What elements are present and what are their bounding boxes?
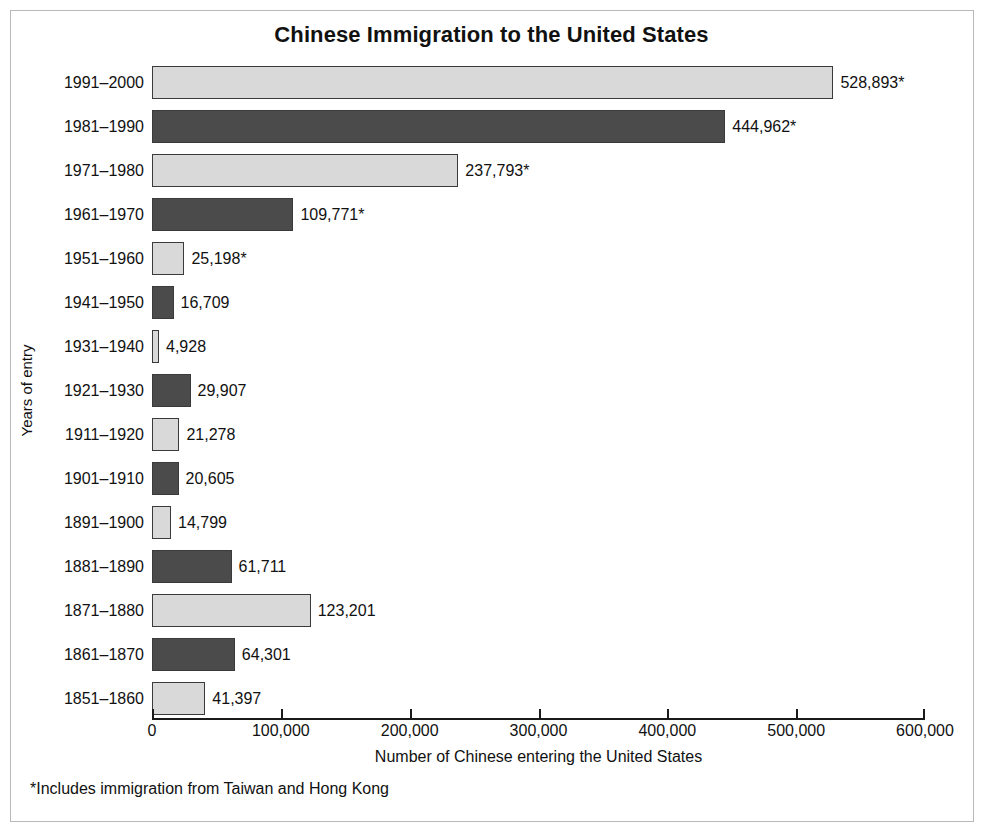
category-label: 1881–1890: [0, 550, 152, 583]
bar: [152, 682, 205, 715]
category-label-cell: 1861–1870: [0, 638, 152, 671]
category-label-cell: 1971–1980: [0, 154, 152, 187]
category-label: 1941–1950: [0, 286, 152, 319]
bar: [152, 330, 159, 363]
x-axis-tick-label: 500,000: [767, 722, 825, 740]
bar: [152, 594, 311, 627]
category-label-cell: 1851–1860: [0, 682, 152, 715]
bar: [152, 506, 171, 539]
x-axis-tick-label: 600,000: [896, 722, 954, 740]
category-label-cell: 1981–1990: [0, 110, 152, 143]
bar-value-label: 237,793*: [465, 154, 529, 187]
category-label-cell: 1911–1920: [0, 418, 152, 451]
x-axis-tick: [667, 709, 669, 718]
category-label-cell: 1991–2000: [0, 66, 152, 99]
category-label-cell: 1881–1890: [0, 550, 152, 583]
category-label: 1981–1990: [0, 110, 152, 143]
x-axis-tick: [796, 709, 798, 718]
bar: [152, 462, 179, 495]
category-label: 1861–1870: [0, 638, 152, 671]
category-label-cell: 1871–1880: [0, 594, 152, 627]
bar: [152, 198, 293, 231]
category-label: 1921–1930: [0, 374, 152, 407]
bar-value-label: 4,928: [166, 330, 206, 363]
x-axis-tick-label: 200,000: [381, 722, 439, 740]
bar-row: 1891–190014,799: [0, 506, 983, 550]
bar-value-label: 29,907: [198, 374, 247, 407]
category-label-cell: 1931–1940: [0, 330, 152, 363]
bar-value-label: 528,893*: [840, 66, 904, 99]
x-axis-tick: [539, 709, 541, 718]
bar-row: 1941–195016,709: [0, 286, 983, 330]
x-axis-tick: [152, 709, 154, 718]
category-label: 1971–1980: [0, 154, 152, 187]
bar-value-label: 14,799: [178, 506, 227, 539]
bar-rows: 1991–2000528,893*1981–1990444,962*1971–1…: [0, 66, 983, 726]
bar-row: 1871–1880123,201: [0, 594, 983, 638]
footnote: *Includes immigration from Taiwan and Ho…: [30, 780, 389, 798]
x-axis-tick-label: 400,000: [638, 722, 696, 740]
bar-row: 1901–191020,605: [0, 462, 983, 506]
category-label: 1931–1940: [0, 330, 152, 363]
bar-row: 1881–189061,711: [0, 550, 983, 594]
bar-value-label: 20,605: [186, 462, 235, 495]
bar: [152, 550, 232, 583]
x-axis-tick-label: 0: [148, 722, 157, 740]
bar: [152, 418, 179, 451]
bar-value-label: 21,278: [186, 418, 235, 451]
bar-row: 1931–19404,928: [0, 330, 983, 374]
x-axis-tick: [281, 709, 283, 718]
category-label: 1901–1910: [0, 462, 152, 495]
category-label: 1991–2000: [0, 66, 152, 99]
bar-value-label: 123,201: [318, 594, 376, 627]
bar-row: 1981–1990444,962*: [0, 110, 983, 154]
category-label-cell: 1941–1950: [0, 286, 152, 319]
x-axis-tick: [410, 709, 412, 718]
bar-row: 1991–2000528,893*: [0, 66, 983, 110]
category-label-cell: 1951–1960: [0, 242, 152, 275]
bar: [152, 110, 725, 143]
bar: [152, 242, 184, 275]
x-axis-tick-label: 100,000: [252, 722, 310, 740]
bar-value-label: 61,711: [239, 550, 287, 583]
bar-row: 1961–1970109,771*: [0, 198, 983, 242]
category-label-cell: 1891–1900: [0, 506, 152, 539]
category-label: 1871–1880: [0, 594, 152, 627]
x-axis-title: Number of Chinese entering the United St…: [152, 748, 925, 766]
category-label: 1891–1900: [0, 506, 152, 539]
category-label-cell: 1901–1910: [0, 462, 152, 495]
bar-row: 1951–196025,198*: [0, 242, 983, 286]
bar-value-label: 64,301: [242, 638, 291, 671]
chart-title: Chinese Immigration to the United States: [0, 22, 983, 48]
category-label: 1851–1860: [0, 682, 152, 715]
x-axis-line: [152, 718, 925, 720]
bar: [152, 66, 833, 99]
bar-value-label: 109,771*: [300, 198, 364, 231]
bar-row: 1861–187064,301: [0, 638, 983, 682]
x-axis-tick-label: 300,000: [510, 722, 568, 740]
bar: [152, 286, 174, 319]
bar-row: 1971–1980237,793*: [0, 154, 983, 198]
bar: [152, 154, 458, 187]
x-axis-tick: [923, 709, 925, 718]
bar-value-label: 444,962*: [732, 110, 796, 143]
bar-value-label: 16,709: [181, 286, 230, 319]
bar-row: 1911–192021,278: [0, 418, 983, 462]
category-label: 1951–1960: [0, 242, 152, 275]
bar-value-label: 41,397: [212, 682, 261, 715]
bar: [152, 638, 235, 671]
bar-value-label: 25,198*: [191, 242, 246, 275]
category-label: 1911–1920: [0, 418, 152, 451]
category-label-cell: 1921–1930: [0, 374, 152, 407]
bar: [152, 374, 191, 407]
category-label-cell: 1961–1970: [0, 198, 152, 231]
chart-figure: Chinese Immigration to the United States…: [0, 0, 983, 840]
category-label: 1961–1970: [0, 198, 152, 231]
bar-row: 1921–193029,907: [0, 374, 983, 418]
